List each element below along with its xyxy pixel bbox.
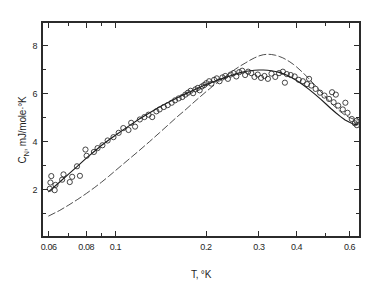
data-point bbox=[61, 172, 66, 177]
y-tick-label-1: 4 bbox=[32, 137, 37, 147]
data-point bbox=[83, 147, 88, 152]
x-axis-ticks bbox=[49, 22, 350, 237]
svg-text:CN, mJ/mole·°K: CN, mJ/mole·°K bbox=[17, 96, 31, 164]
x-tick-label-3: 0.2 bbox=[200, 242, 212, 252]
y-tick-label-2: 6 bbox=[32, 89, 37, 99]
x-axis-title: T, °K bbox=[191, 269, 212, 280]
data-point bbox=[49, 173, 54, 178]
data-point bbox=[329, 90, 334, 95]
data-point bbox=[322, 93, 327, 98]
x-tick-label-5: 0.4 bbox=[291, 242, 303, 252]
data-point bbox=[52, 188, 57, 193]
data-point bbox=[333, 92, 338, 97]
x-tick-label-0: 0.06 bbox=[41, 242, 57, 252]
data-point bbox=[70, 174, 75, 179]
svg-text:T, °K: T, °K bbox=[191, 269, 212, 280]
figure-container: 0.060.080.10.20.30.40.6 2468 T, °K CN, m… bbox=[0, 0, 380, 297]
chart-canvas: 0.060.080.10.20.30.40.6 2468 T, °K CN, m… bbox=[0, 0, 380, 297]
data-point bbox=[265, 76, 270, 81]
data-point bbox=[53, 182, 58, 187]
data-point bbox=[282, 80, 287, 85]
data-point bbox=[345, 110, 350, 115]
y-tick-label-3: 8 bbox=[32, 41, 37, 51]
data-point bbox=[67, 179, 72, 184]
y-tick-label-0: 2 bbox=[32, 185, 37, 195]
data-point bbox=[150, 114, 155, 119]
data-point bbox=[77, 173, 82, 178]
x-tick-label-1: 0.08 bbox=[78, 242, 94, 252]
data-point bbox=[313, 86, 318, 91]
plot-frame bbox=[42, 22, 360, 237]
y-axis-title: CN, mJ/mole·°K bbox=[17, 96, 31, 164]
x-tick-label-2: 0.1 bbox=[110, 242, 122, 252]
y-axis-ticks bbox=[42, 46, 360, 213]
x-axis-tick-labels: 0.060.080.10.20.30.40.6 bbox=[41, 242, 356, 252]
data-point bbox=[343, 100, 348, 105]
data-point-markers bbox=[47, 68, 359, 193]
data-point bbox=[132, 124, 137, 129]
data-point bbox=[126, 127, 131, 132]
data-point bbox=[243, 72, 248, 77]
data-point bbox=[336, 103, 341, 108]
data-point bbox=[331, 100, 336, 105]
y-axis-tick-labels: 2468 bbox=[32, 41, 37, 194]
data-point bbox=[340, 107, 345, 112]
data-point bbox=[48, 180, 53, 185]
x-tick-label-4: 0.3 bbox=[253, 242, 265, 252]
x-tick-label-6: 0.6 bbox=[344, 242, 356, 252]
